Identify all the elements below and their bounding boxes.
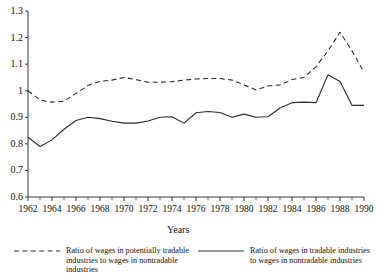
legend-item-potentially-tradable: Ratio of wages in potentially tradable i… bbox=[14, 246, 194, 275]
legend-label-potentially-tradable: Ratio of wages in potentially tradable i… bbox=[66, 246, 194, 275]
series-line-tradable bbox=[28, 75, 364, 147]
chart-plot-area bbox=[0, 0, 381, 280]
y-axis-tick-label: 0.9 bbox=[1, 112, 23, 122]
x-axis-ticks bbox=[28, 197, 364, 201]
chart-series-group bbox=[28, 32, 364, 146]
legend-dashed-line-swatch bbox=[14, 250, 60, 252]
y-axis-tick-label: 0.8 bbox=[1, 139, 23, 149]
y-axis-tick-label: 0.7 bbox=[1, 165, 23, 175]
y-axis-tick-label: 1.1 bbox=[1, 59, 23, 69]
y-axis-tick-label: 1 bbox=[1, 86, 23, 96]
y-axis-tick-label: 1.2 bbox=[1, 33, 23, 43]
chart-axes bbox=[28, 11, 364, 197]
series-line-potentially-tradable bbox=[28, 32, 364, 102]
y-axis-tick-label: 0.6 bbox=[1, 192, 23, 202]
legend-item-tradable: Ratio of wages in tradable industries to… bbox=[198, 246, 374, 265]
legend-label-tradable: Ratio of wages in tradable industries to… bbox=[250, 246, 374, 265]
legend-solid-line-swatch bbox=[198, 250, 244, 252]
x-axis-tick-label: 1990 bbox=[349, 204, 379, 214]
y-axis-tick-label: 1.3 bbox=[1, 6, 23, 16]
chart-legend: Ratio of wages in potentially tradable i… bbox=[0, 246, 381, 280]
x-axis-title: Years bbox=[167, 224, 189, 235]
chart-container: 0.60.70.80.911.11.21.3 19621964196619681… bbox=[0, 0, 381, 280]
